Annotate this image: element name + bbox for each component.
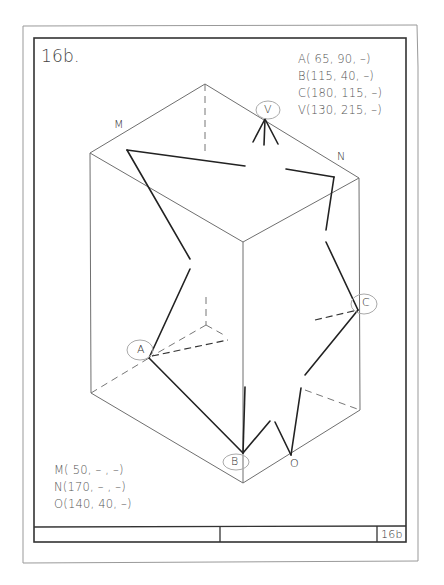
point-label-o: O bbox=[290, 457, 299, 470]
given-points-bottom: M( 50, – , –) N(170, – , –) O(140, 40, –… bbox=[54, 462, 132, 513]
given-points-top: A( 65, 90, –) B(115, 40, –) C(180, 115, … bbox=[298, 51, 382, 119]
coord-b: B(115, 40, –) bbox=[298, 68, 382, 85]
point-label-c: C bbox=[362, 296, 370, 309]
coord-o: O(140, 40, –) bbox=[54, 496, 132, 513]
point-label-n: N bbox=[337, 150, 345, 163]
coord-v: V(130, 215, –) bbox=[298, 102, 382, 119]
sheet-title: 16b. bbox=[41, 46, 80, 66]
point-label-b: B bbox=[231, 455, 238, 468]
coord-a: A( 65, 90, –) bbox=[298, 51, 382, 68]
coord-n: N(170, – , –) bbox=[54, 479, 132, 496]
point-label-m: M bbox=[114, 118, 124, 131]
coord-m: M( 50, – , –) bbox=[54, 462, 132, 479]
title-block-top bbox=[34, 526, 406, 527]
coord-c: C(180, 115, –) bbox=[298, 85, 382, 102]
prism-box bbox=[90, 84, 360, 483]
hidden-lines bbox=[91, 84, 360, 410]
point-label-a: A bbox=[137, 343, 145, 356]
point-label-v: V bbox=[264, 103, 272, 116]
title-block-number: 16b bbox=[381, 528, 403, 541]
